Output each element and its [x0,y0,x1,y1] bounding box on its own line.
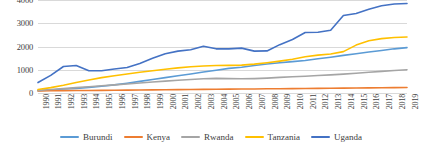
x-tick-label: 2019 [411,94,420,109]
x-tick-label: 2003 [207,94,216,109]
x-tick-label: 1994 [92,94,101,109]
y-tick-label: 3000 [17,18,33,28]
x-tick-label: 2013 [334,94,343,109]
x-tick-label: 2008 [271,94,280,109]
legend-label: Burundi [83,132,113,142]
x-tick-label: 1996 [118,94,127,109]
plot-area [38,0,407,93]
legend-item-tanzania[interactable]: Tanzania [245,132,300,142]
x-tick-label: 2018 [398,94,407,109]
y-tick-label: 2000 [17,42,33,52]
chart-legend: BurundiKenyaRwandaTanzaniaUganda [0,132,422,142]
x-tick-label: 2002 [194,94,203,109]
x-tick-label: 2010 [296,94,305,109]
x-tick-label: 2000 [169,94,178,109]
legend-label: Rwanda [204,132,234,142]
line-chart: 01000200030004000 1990199119921993199419… [0,0,422,145]
legend-label: Uganda [334,132,362,142]
x-tick-label: 1991 [54,94,63,109]
y-tick-label: 4000 [17,0,33,5]
x-tick-label: 2017 [385,94,394,109]
x-tick-label: 1999 [156,94,165,109]
x-tick-label: 2006 [245,94,254,109]
x-tick-label: 2007 [258,94,267,109]
x-tick-label: 1995 [105,94,114,109]
x-tick-label: 2012 [321,94,330,109]
legend-swatch-icon [124,136,143,138]
series-line-uganda [38,3,407,82]
legend-label: Tanzania [268,132,300,142]
x-tick-label: 2015 [360,94,369,109]
legend-swatch-icon [245,136,264,138]
legend-label: Kenya [147,132,171,142]
series-line-burundi [38,48,407,91]
x-tick-label: 1998 [143,94,152,109]
x-tick-label: 1992 [67,94,76,109]
x-tick-label: 2004 [220,94,229,109]
x-tick-label: 2016 [372,94,381,109]
legend-swatch-icon [311,136,330,138]
legend-item-uganda[interactable]: Uganda [311,132,362,142]
x-axis-tick-labels: 1990199119921993199419951996199719981999… [38,94,407,124]
series-line-tanzania [38,37,407,90]
x-tick-label: 1993 [80,94,89,109]
series-line-kenya [38,88,407,91]
y-axis-tick-labels: 01000200030004000 [0,0,36,122]
x-tick-label: 2005 [232,94,241,109]
plot-wrapper: 01000200030004000 1990199119921993199419… [0,0,422,122]
x-tick-label: 2014 [347,94,356,109]
y-tick-label: 1000 [17,65,33,75]
legend-item-rwanda[interactable]: Rwanda [181,132,234,142]
legend-item-kenya[interactable]: Kenya [124,132,171,142]
legend-swatch-icon [181,136,200,138]
x-tick-label: 1990 [42,94,51,109]
x-tick-label: 2001 [181,94,190,109]
series-lines [38,0,407,93]
x-tick-label: 1997 [131,94,140,109]
legend-item-burundi[interactable]: Burundi [60,132,113,142]
y-tick-label: 0 [29,88,33,98]
x-tick-label: 2011 [309,94,318,109]
legend-swatch-icon [60,136,79,138]
x-tick-label: 2009 [283,94,292,109]
